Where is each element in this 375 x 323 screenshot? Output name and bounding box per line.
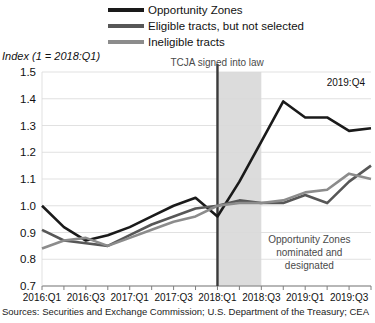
y-tick-label: 1.2 bbox=[20, 146, 36, 158]
y-tick-label: 0.7 bbox=[20, 280, 36, 292]
y-tick-label: 1.3 bbox=[20, 120, 36, 132]
y-tick-label: 1.5 bbox=[20, 66, 36, 78]
shaded-region-annotation-line: Opportunity Zones bbox=[268, 234, 350, 245]
x-tick-label: 2019:Q1 bbox=[286, 292, 325, 303]
x-axis-ticks: 2016:Q12016:Q32017:Q12017:Q32018:Q12018:… bbox=[23, 286, 371, 303]
y-tick-label: 1.0 bbox=[20, 200, 36, 212]
tcja-annotation-label: TCJA signed into law bbox=[170, 57, 264, 68]
chart-figure: Opportunity Zones Eligible tracts, but n… bbox=[0, 0, 375, 323]
x-tick-label: 2018:Q1 bbox=[198, 292, 237, 303]
data-series bbox=[42, 101, 371, 248]
y-axis-ticks: 0.70.80.91.01.11.21.31.41.5 bbox=[20, 66, 37, 292]
x-tick-label: 2017:Q1 bbox=[111, 292, 150, 303]
chart-annotations: TCJA signed into law2019:Q4Opportunity Z… bbox=[170, 57, 365, 271]
source-note: Sources: Securities and Exchange Commiss… bbox=[2, 306, 369, 317]
x-tick-label: 2018:Q3 bbox=[242, 292, 281, 303]
x-tick-label: 2017:Q3 bbox=[154, 292, 193, 303]
x-tick-label: 2019:Q3 bbox=[330, 292, 369, 303]
y-tick-label: 1.1 bbox=[20, 173, 36, 185]
y-tick-label: 0.9 bbox=[20, 227, 36, 239]
chart-plot-area: 0.70.80.91.01.11.21.31.41.5 2016:Q12016:… bbox=[0, 0, 375, 323]
x-tick-label: 2016:Q1 bbox=[23, 292, 62, 303]
y-tick-label: 0.8 bbox=[20, 253, 36, 265]
endpoint-annotation-label: 2019:Q4 bbox=[327, 77, 366, 88]
series-line bbox=[42, 101, 371, 240]
x-tick-label: 2016:Q3 bbox=[67, 292, 106, 303]
y-tick-label: 1.4 bbox=[20, 93, 37, 105]
shaded-region-annotation-line: nominated and bbox=[276, 247, 342, 258]
shaded-region-annotation-line: designated bbox=[285, 260, 334, 271]
